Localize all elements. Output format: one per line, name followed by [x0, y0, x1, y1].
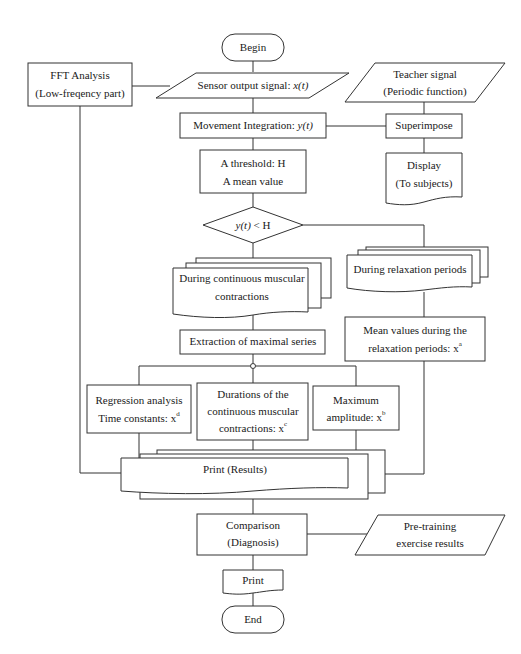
sensor-var: x(t): [292, 79, 309, 92]
begin-label: Begin: [240, 41, 267, 53]
durations-label-line3: contractions: x: [219, 422, 285, 434]
contractions-label-line2: contractions: [215, 290, 269, 302]
teacher-label-line2: (Periodic function): [383, 85, 467, 98]
threshold-box: A threshold: H A mean value: [200, 150, 306, 193]
comparison-label-line2: (Diagnosis): [227, 536, 279, 549]
decision-var: y(t): [235, 219, 252, 232]
extraction-box: Extraction of maximal series: [180, 330, 325, 354]
maximum-superscript: b: [382, 409, 386, 417]
mean-values-box: Mean values during the relaxation period…: [345, 317, 485, 361]
contractions-multidocument: During continuous muscular contractions: [173, 258, 331, 318]
superimpose-label: Superimpose: [395, 119, 453, 131]
maximum-amplitude-box: Maximum amplitude: xb: [313, 386, 399, 430]
svg-text:y(t) < H: y(t) < H: [235, 219, 271, 232]
regression-superscript: d: [176, 410, 180, 418]
print-document: Print: [223, 570, 283, 594]
maximum-label-line1: Maximum: [333, 394, 379, 406]
end-label: End: [244, 613, 262, 625]
edge-decision-relaxation: [303, 225, 424, 247]
durations-superscript: c: [284, 420, 287, 428]
svg-text:amplitude: xb: amplitude: xb: [327, 409, 386, 423]
svg-text:contractions: xc: contractions: xc: [219, 420, 287, 434]
relaxation-label: During relaxation periods: [353, 263, 466, 275]
teacher-label-line1: Teacher signal: [393, 68, 457, 80]
pretraining-label-line2: exercise results: [396, 537, 464, 549]
display-label-line2: (To subjects): [396, 177, 453, 190]
junction-node: [251, 364, 256, 369]
superimpose-box: Superimpose: [386, 114, 462, 138]
decision-diamond: y(t) < H: [203, 207, 303, 243]
display-document: Display (To subjects): [386, 153, 462, 205]
threshold-label-line1: A threshold: H: [221, 157, 286, 169]
mean-values-label-line2: relaxation periods: x: [368, 342, 459, 354]
teacher-signal-data: Teacher signal (Periodic function): [345, 63, 505, 102]
flowchart-canvas: Begin FFT Analysis (Low-freqency part) S…: [0, 0, 521, 654]
extraction-label: Extraction of maximal series: [190, 335, 317, 347]
begin-terminal: Begin: [222, 34, 284, 61]
movement-integration-box: Movement Integration: y(t): [180, 113, 326, 138]
pretraining-data: Pre-training exercise results: [355, 515, 505, 555]
regression-label-line1: Regression analysis: [95, 394, 182, 406]
svg-text:Time constants: xd: Time constants: xd: [98, 410, 180, 424]
sensor-label: Sensor output signal:: [198, 79, 294, 91]
pretraining-label-line1: Pre-training: [404, 520, 457, 532]
decision-label: < H: [251, 219, 271, 231]
durations-label-line2: continuous muscular: [207, 405, 299, 417]
fft-label-line1: FFT Analysis: [50, 69, 109, 81]
print-results-label: Print (Results): [203, 463, 267, 476]
durations-box: Durations of the continuous muscular con…: [197, 383, 308, 440]
regression-box: Regression analysis Time constants: xd: [87, 385, 191, 433]
end-terminal: End: [222, 606, 284, 633]
mean-values-label-line1: Mean values during the: [363, 324, 467, 336]
edge-junction-regression: [139, 366, 250, 385]
movement-label: Movement Integration:: [193, 119, 297, 131]
svg-text:relaxation periods: xa: relaxation periods: xa: [368, 340, 462, 354]
maximum-label-line2: amplitude: x: [327, 411, 383, 423]
sensor-output-data: Sensor output signal: x(t): [156, 73, 349, 98]
print-results-multidocument: Print (Results): [121, 450, 385, 499]
fft-analysis-box: FFT Analysis (Low-freqency part): [28, 63, 132, 106]
threshold-label-line2: A mean value: [223, 175, 284, 187]
print-label: Print: [242, 574, 263, 586]
relaxation-multidocument: During relaxation periods: [347, 247, 488, 292]
comparison-box: Comparison (Diagnosis): [197, 514, 307, 555]
display-label-line1: Display: [407, 159, 442, 171]
svg-text:Movement Integration: y(t): Movement Integration: y(t): [193, 119, 313, 132]
regression-label-line2: Time constants: x: [98, 412, 176, 424]
svg-text:Sensor output signal: x(t): Sensor output signal: x(t): [198, 79, 309, 92]
comparison-label-line1: Comparison: [226, 519, 280, 531]
fft-label-line2: (Low-freqency part): [35, 87, 125, 100]
movement-var: y(t): [297, 119, 314, 132]
durations-label-line1: Durations of the: [217, 388, 289, 400]
contractions-label-line1: During continuous muscular: [179, 272, 305, 284]
